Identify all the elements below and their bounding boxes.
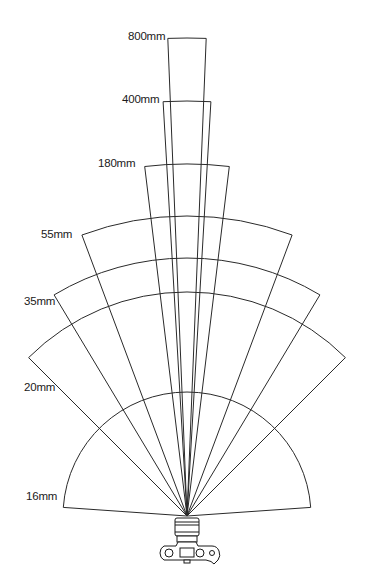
focal-length-label: 16mm — [26, 490, 57, 502]
sector-180mm — [145, 164, 230, 516]
sector-20mm — [29, 292, 346, 516]
sector-35mm — [54, 258, 320, 516]
sector-55mm — [82, 216, 292, 516]
focal-length-label: 180mm — [98, 157, 135, 169]
focal-length-label: 400mm — [122, 93, 159, 105]
sector-16mm — [63, 392, 310, 516]
focal-length-label: 35mm — [24, 295, 55, 307]
sector-400mm — [163, 101, 211, 516]
field-of-view-sectors — [29, 38, 346, 516]
focal-length-label: 20mm — [24, 381, 55, 393]
focal-length-label: 800mm — [128, 30, 165, 42]
focal-length-label: 55mm — [41, 228, 72, 240]
camera-top-view-icon — [160, 518, 220, 564]
